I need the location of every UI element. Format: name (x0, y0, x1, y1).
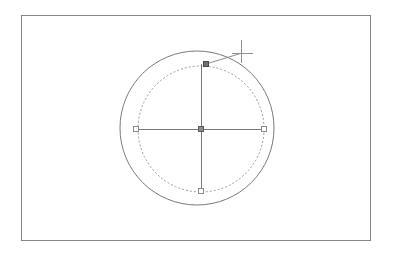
grip-center[interactable] (199, 127, 204, 132)
cad-application-window: Drawing canvas showing a dashed original… (0, 0, 393, 256)
grip-bottom-quadrant[interactable] (199, 189, 204, 194)
canvas-background (0, 0, 393, 256)
drawing-canvas[interactable] (0, 0, 393, 256)
grip-right-quadrant[interactable] (262, 127, 267, 132)
grip-left-quadrant[interactable] (134, 127, 139, 132)
grip-top-quadrant[interactable] (204, 62, 209, 67)
